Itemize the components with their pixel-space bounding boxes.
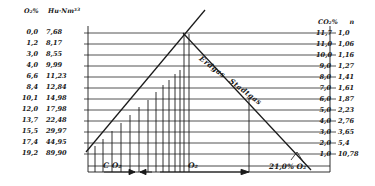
right-co2-3: 9,0	[316, 62, 331, 70]
right-n-6: 1,87	[338, 95, 362, 103]
left-hu-1: 8,17	[46, 39, 74, 47]
right-co2-6: 6,0	[316, 95, 331, 103]
axis-label-co2: C O₂	[103, 161, 122, 170]
left-o2-2: 3,0	[18, 50, 38, 58]
right-n-7: 2,23	[338, 106, 362, 114]
left-table-header: O₂% Hu·Nm³3	[24, 7, 80, 15]
axis-label-21-percent-o2: 21,0% O₂	[269, 162, 306, 171]
left-hu-9: 29,97	[46, 127, 74, 135]
left-hu-4: 11,23	[46, 72, 74, 80]
dimension-arrows	[104, 169, 249, 174]
left-o2-6: 10,1	[18, 94, 38, 102]
right-co2-7: 5,0	[316, 106, 331, 114]
right-co2-5: 7,0	[316, 84, 331, 92]
right-n-11: 10,78	[338, 150, 362, 158]
left-hu-5: 12,84	[46, 83, 74, 91]
right-co2-2: 10,0	[316, 51, 331, 59]
left-hu-3: 9,99	[46, 61, 74, 69]
left-o2-3: 4,0	[18, 61, 38, 69]
left-o2-10: 17,4	[18, 138, 38, 146]
left-header-col1: O₂%	[24, 7, 39, 15]
right-n-2: 1,16	[338, 51, 362, 59]
right-co2-9: 3,0	[316, 128, 331, 136]
left-hu-8: 22,48	[46, 116, 74, 124]
right-n-10: 5,4	[338, 139, 362, 147]
right-n-5: 1,61	[338, 84, 362, 92]
left-hu-7: 17,98	[46, 105, 74, 113]
left-hu-6: 14,98	[46, 94, 74, 102]
left-value-table: O₂% Hu·Nm³3 0,07,68 1,28,17 3,08,55 4,09…	[0, 0, 88, 186]
left-o2-8: 13,7	[18, 116, 38, 124]
left-hu-11: 89,90	[46, 149, 74, 157]
co2-rising-line	[86, 10, 205, 152]
right-value-table: CO₂% n 11,71,0 11,01,06 10,01,16 9,01,27…	[316, 0, 375, 186]
right-co2-8: 4,0	[316, 117, 331, 125]
axis-label-o2: O₂	[188, 161, 198, 170]
right-co2-0: 11,7	[316, 29, 331, 37]
right-n-8: 2,76	[338, 117, 362, 125]
right-header-col1: CO₂%	[318, 18, 338, 26]
left-hu-10: 44,95	[46, 138, 74, 146]
right-n-4: 1,41	[338, 73, 362, 81]
right-n-3: 1,27	[338, 62, 362, 70]
right-co2-11: 1,0	[316, 150, 331, 158]
right-co2-1: 11,0	[316, 40, 331, 48]
left-o2-7: 12,0	[18, 105, 38, 113]
right-co2-4: 8,0	[316, 73, 331, 81]
left-o2-4: 6,6	[18, 72, 38, 80]
left-o2-0: 0,0	[18, 28, 38, 36]
left-hu-0: 7,68	[46, 28, 74, 36]
horizontal-gridlines	[88, 33, 330, 154]
right-co2-10: 2,0	[316, 139, 331, 147]
left-o2-9: 15,5	[18, 127, 38, 135]
right-n-9: 3,65	[338, 128, 362, 136]
left-header-col2: Hu·Nm³	[48, 7, 77, 15]
right-table-header: CO₂% n	[318, 18, 354, 26]
left-o2-11: 19,2	[18, 149, 38, 157]
right-n-0: 1,0	[338, 29, 362, 37]
right-n-1: 1,06	[338, 40, 362, 48]
left-o2-1: 1,2	[18, 39, 38, 47]
left-o2-5: 8,4	[18, 83, 38, 91]
right-header-col2: n	[350, 18, 355, 26]
left-hu-2: 8,55	[46, 50, 74, 58]
